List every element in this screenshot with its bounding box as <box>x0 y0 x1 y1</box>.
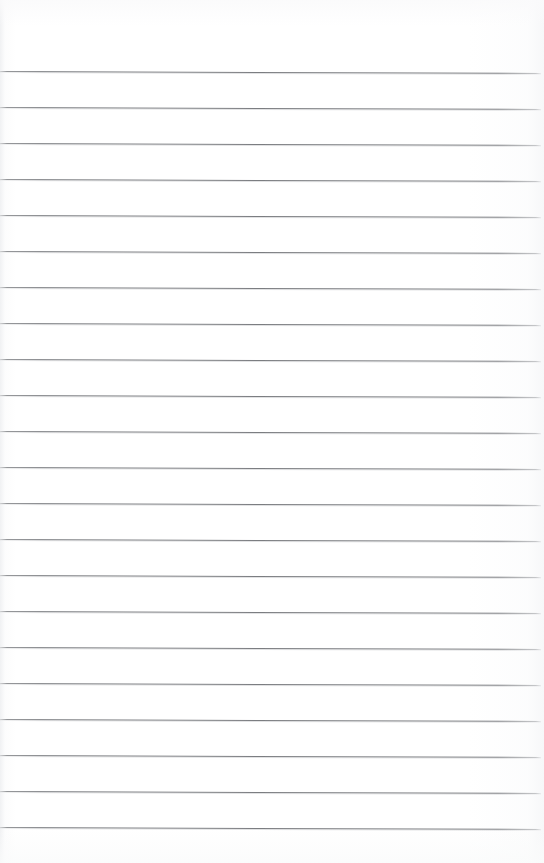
rule-line <box>0 503 541 506</box>
rule-line <box>0 107 541 110</box>
rule-line <box>0 287 541 290</box>
rule-line <box>0 359 541 362</box>
rule-line <box>0 683 541 686</box>
rule-line <box>0 575 541 578</box>
rule-line <box>0 143 541 146</box>
rule-line <box>0 755 541 758</box>
rule-line <box>0 611 541 614</box>
rule-line <box>0 467 541 470</box>
rule-line <box>0 431 541 434</box>
scanned-page <box>0 0 544 863</box>
rule-line <box>0 251 541 254</box>
rule-line <box>0 827 541 830</box>
rule-line <box>0 71 541 74</box>
rule-line <box>0 215 541 218</box>
rule-line <box>0 323 541 326</box>
rule-line <box>0 791 541 794</box>
rule-line <box>0 539 541 542</box>
rule-line <box>0 395 541 398</box>
ruled-lines-layer <box>0 0 544 863</box>
rule-line <box>0 719 541 722</box>
rule-line <box>0 179 541 182</box>
rule-line <box>0 647 541 650</box>
